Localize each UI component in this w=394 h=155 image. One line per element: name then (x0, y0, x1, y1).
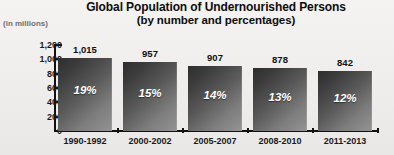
x-axis-category-label: 2000-2002 (116, 136, 184, 146)
bar: 90714% (188, 66, 242, 131)
x-axis-category-label: 2008-2010 (246, 136, 314, 146)
y-axis-units-label: (in millions) (3, 19, 48, 28)
bar-percentage-label: 13% (268, 91, 291, 103)
x-axis-category-label: 2005-2007 (181, 136, 249, 146)
bar-percentage-label: 14% (203, 89, 226, 101)
y-axis-tick-label: 400 (16, 97, 62, 107)
y-axis-tick-label: 1,000 (16, 54, 62, 64)
bar: 95715% (123, 62, 177, 131)
chart-subtitle: (by number and percentages) (48, 14, 384, 27)
x-axis-tick (377, 128, 379, 133)
bar-percentage-label: 12% (333, 92, 356, 104)
bar-value-label: 1,015 (73, 44, 97, 55)
x-axis-tick (312, 128, 314, 133)
bar-value-label: 878 (272, 54, 288, 65)
x-axis-tick (247, 128, 249, 133)
chart-container: Global Population of Undernourished Pers… (0, 0, 394, 155)
chart-title: Global Population of Undernourished Pers… (48, 1, 384, 14)
x-axis-category-label: 2011-2013 (311, 136, 379, 146)
bar: 87813% (253, 68, 307, 131)
x-axis-tick (117, 128, 119, 133)
y-axis-tick-label: 1,200 (16, 40, 62, 50)
bar-value-label: 842 (337, 57, 353, 68)
chart-title-block: Global Population of Undernourished Pers… (48, 1, 384, 27)
x-axis-tick (182, 128, 184, 133)
bar-percentage-label: 15% (138, 87, 161, 99)
y-axis-tick-label: 200 (16, 112, 62, 122)
bar-percentage-label: 19% (73, 84, 96, 96)
bar: 84212% (318, 71, 372, 131)
x-axis-category-label: 1990-1992 (51, 136, 119, 146)
bar-value-label: 957 (142, 48, 158, 59)
y-axis-tick-label: 800 (16, 69, 62, 79)
bar: 1,01519% (58, 58, 112, 131)
y-axis-tick-label: 0 (16, 126, 62, 136)
y-axis-tick-label: 600 (16, 83, 62, 93)
bar-value-label: 907 (207, 52, 223, 63)
